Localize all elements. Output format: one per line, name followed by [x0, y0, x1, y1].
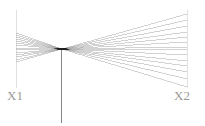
left-ray-line-11: [16, 49, 62, 57]
right-ray-line-13: [62, 49, 187, 87]
focus-point-marker: [57, 48, 68, 50]
right-ray-line-12: [62, 49, 187, 79]
right-ray-line-10: [62, 49, 187, 66]
right-ray-line-0: [62, 14, 187, 49]
axis-label-x2: X2: [174, 89, 190, 102]
axis-lines-group: [16, 10, 187, 88]
ray-diagram-figure: X1 X2: [0, 0, 205, 126]
ray-diagram-canvas: [0, 0, 205, 126]
left-ray-fan-group: [16, 33, 62, 62]
left-ray-line-0: [16, 33, 62, 49]
right-ray-line-11: [62, 49, 187, 72]
left-ray-line-12: [16, 49, 62, 60]
right-ray-line-9: [62, 49, 187, 61]
axis-label-x1: X1: [7, 89, 23, 102]
right-ray-fan-group: [62, 14, 187, 87]
